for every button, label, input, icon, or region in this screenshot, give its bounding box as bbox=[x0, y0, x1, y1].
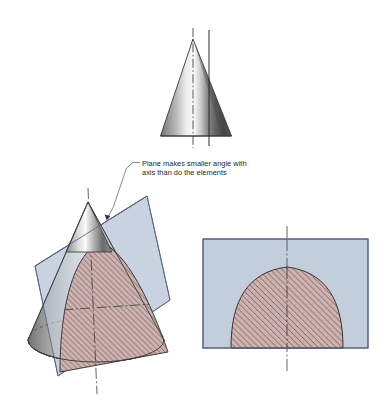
pictorial-view bbox=[28, 188, 170, 394]
annotation-line-1: Plane makes smaller angle with bbox=[142, 159, 247, 168]
conic-section-figure: Plane makes smaller angle with axis than… bbox=[0, 0, 387, 407]
annotation-text-group: Plane makes smaller angle with axis than… bbox=[142, 159, 247, 177]
true-shape-view bbox=[203, 226, 368, 372]
top-cone-view bbox=[161, 28, 232, 148]
annotation-line-2: axis than do the elements bbox=[142, 168, 227, 177]
figure-canvas: Plane makes smaller angle with axis than… bbox=[0, 0, 387, 407]
